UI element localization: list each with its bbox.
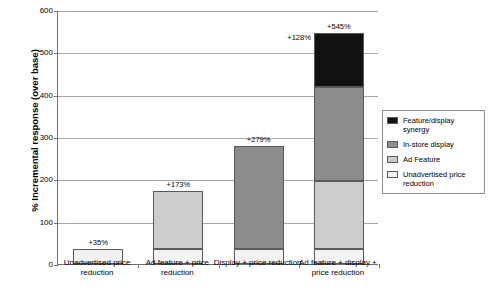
y-tick-label: 500 — [13, 49, 58, 57]
stacked-bar[interactable]: +35% — [73, 10, 123, 264]
legend-label: Feature/display synergy — [403, 116, 480, 134]
bar-group: +35% — [73, 11, 123, 264]
segment-annotation: +128% — [287, 34, 311, 42]
legend-label: Ad Feature — [403, 155, 440, 164]
bar-segment[interactable] — [153, 191, 203, 249]
stacked-bar[interactable]: +128%+545% — [314, 10, 364, 264]
bar-total-label: +279% — [216, 136, 302, 144]
chart-container: % Incremental response (over base) 01002… — [0, 0, 489, 303]
chart-legend: Feature/display synergyIn-store displayA… — [382, 110, 485, 194]
legend-swatch-icon — [387, 141, 398, 148]
x-category-label: Ad feature + price reduction — [131, 258, 223, 278]
y-tick-label: 400 — [13, 92, 58, 100]
stacked-bar[interactable]: +279% — [234, 10, 284, 264]
bar-group: +128%+545% — [314, 11, 364, 264]
y-tick-label: 300 — [13, 134, 58, 142]
bar-segment[interactable] — [314, 87, 364, 181]
bar-total-label: +173% — [135, 181, 221, 189]
x-category-label: Ad feature + display + price reduction — [292, 258, 384, 278]
plot-area: 0100200300400500600 +35%+173%+279%+128%+… — [57, 11, 378, 265]
legend-swatch-icon — [387, 156, 398, 163]
bar-series-layer: +35%+173%+279%+128%+545% — [58, 11, 378, 264]
legend-swatch-icon — [387, 171, 398, 178]
bar-total-label: +35% — [55, 239, 141, 247]
bar-group: +279% — [234, 11, 284, 264]
stacked-bar[interactable]: +173% — [153, 10, 203, 264]
bar-segment[interactable] — [234, 146, 284, 249]
y-tick-label: 200 — [13, 176, 58, 184]
x-category-label: Unadvertised price reduction — [51, 258, 143, 278]
x-category-label: Display + price reduction — [212, 258, 304, 268]
legend-label: Unadvertised price reduction — [403, 170, 480, 188]
bar-total-label: +545% — [296, 23, 382, 31]
legend-label: In-store display — [403, 140, 454, 149]
legend-item[interactable]: Ad Feature — [387, 155, 480, 164]
legend-item[interactable]: Feature/display synergy — [387, 116, 480, 134]
bar-segment[interactable] — [314, 33, 364, 87]
legend-item[interactable]: Unadvertised price reduction — [387, 170, 480, 188]
y-tick-label: 100 — [13, 219, 58, 227]
legend-item[interactable]: In-store display — [387, 140, 480, 149]
bar-group: +173% — [153, 11, 203, 264]
bar-segment[interactable] — [314, 181, 364, 249]
legend-swatch-icon — [387, 117, 398, 124]
y-tick-label: 600 — [13, 7, 58, 15]
